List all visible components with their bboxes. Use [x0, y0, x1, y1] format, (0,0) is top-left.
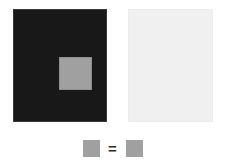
comparison-swatch-right: [126, 140, 143, 157]
illusion-figure: =: [0, 0, 225, 165]
comparison-swatch-left: [83, 140, 100, 157]
light-surround-panel: [128, 9, 213, 122]
dark-surround-panel: [13, 9, 107, 122]
equals-sign-glyph: =: [106, 140, 120, 157]
gray-patch-on-dark: [59, 57, 92, 90]
comparison-row: =: [0, 136, 225, 160]
